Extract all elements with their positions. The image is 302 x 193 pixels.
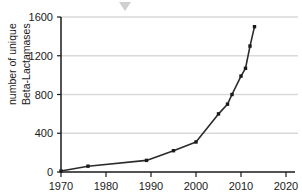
data-point [230,93,233,96]
line-chart-svg: 040080012001600 197019801990200020102020… [0,0,302,193]
y-tick-label: 400 [35,127,53,139]
x-tick-label: 1990 [139,180,163,192]
y-tick-label: 1600 [29,11,53,23]
data-point [253,25,256,28]
x-tick-label: 2000 [184,180,208,192]
data-point [59,169,62,172]
top-chevron-icon [119,2,131,11]
data-point [248,44,251,47]
y-tick-label: 0 [47,166,53,178]
y-tick-label: 1200 [29,50,53,62]
x-tick-label: 1980 [94,180,118,192]
data-series-line [61,27,255,171]
x-tick-label: 2020 [274,180,298,192]
data-point [226,102,229,105]
gridline-group [61,17,298,133]
y-tick-label: 800 [35,89,53,101]
data-point-group [59,25,256,173]
data-point [194,140,197,143]
x-tick-label: 2010 [229,180,253,192]
y-axis-title-line1: number of unique [6,23,18,105]
chart-figure: 040080012001600 197019801990200020102020… [0,0,302,193]
data-point [217,112,220,115]
data-point [86,164,89,167]
x-axis-ticks: 197019801990200020102020 [49,172,298,192]
y-axis-ticks: 040080012001600 [29,11,61,178]
data-point [244,67,247,70]
data-point [239,74,242,77]
x-tick-label: 1970 [49,180,73,192]
data-point [145,159,148,162]
y-axis-title-line2: Beta-Lactamases [20,23,32,105]
data-point [172,149,175,152]
